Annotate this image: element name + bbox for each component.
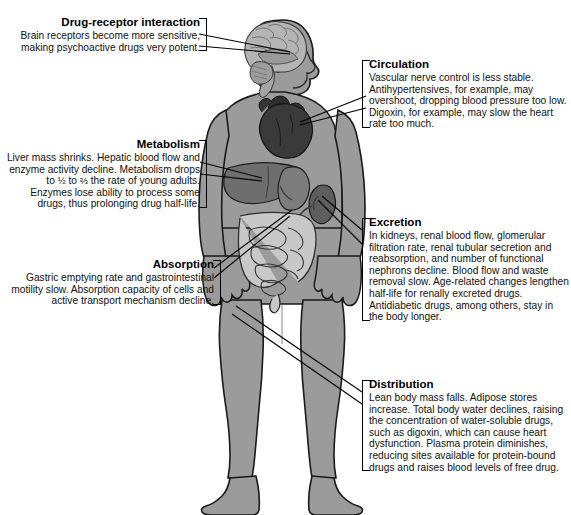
- callout-body: Gastric emptying rate and gastrointestin…: [6, 272, 214, 307]
- callout-title: Metabolism: [6, 138, 200, 151]
- callout-bracket: [362, 218, 370, 321]
- callout-body: Lean body mass falls. Adipose stores inc…: [369, 392, 571, 473]
- callout-body: In kidneys, renal blood flow, glomerular…: [369, 230, 569, 323]
- callout-distribution: Distribution Lean body mass falls. Adipo…: [362, 378, 571, 473]
- callout-bracket: [213, 260, 221, 305]
- callout-body-part-2: to: [66, 175, 80, 186]
- callout-bracket: [199, 140, 207, 208]
- callout-title: Distribution: [369, 378, 571, 391]
- callout-title: Drug-receptor interaction: [8, 16, 200, 29]
- callout-metabolism: Metabolism Liver mass shrinks. Hepatic b…: [6, 138, 207, 210]
- callout-circulation: Circulation Vascular nerve control is le…: [362, 58, 567, 130]
- callout-title: Absorption: [6, 258, 214, 271]
- callout-absorption: Absorption Gastric emptying rate and gas…: [6, 258, 221, 307]
- callout-body: Brain receptors become more sensitive, m…: [8, 30, 200, 53]
- callout-excretion: Excretion In kidneys, renal blood flow, …: [362, 216, 569, 323]
- callout-bracket: [199, 18, 207, 51]
- callout-bracket: [362, 380, 370, 471]
- callout-drug-receptor-interaction: Drug-receptor interaction Brain receptor…: [8, 16, 207, 53]
- callout-bracket: [362, 60, 370, 128]
- callout-body: Vascular nerve control is less stable. A…: [369, 72, 567, 130]
- callout-title: Circulation: [369, 58, 567, 71]
- fraction-one-half: ½: [58, 175, 66, 186]
- callout-body: Liver mass shrinks. Hepatic blood flow a…: [6, 152, 200, 210]
- fraction-two-thirds: ⅔: [80, 175, 88, 186]
- callout-title: Excretion: [369, 216, 569, 229]
